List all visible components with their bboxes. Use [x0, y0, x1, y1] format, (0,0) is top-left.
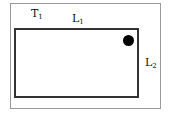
- label-l2: L2: [145, 57, 157, 72]
- label-l1-sub: 1: [79, 18, 83, 26]
- label-l2-sub: 2: [152, 62, 156, 70]
- label-t1-sub: 1: [38, 13, 42, 21]
- label-l1: L1: [72, 13, 84, 28]
- label-t1: T1: [31, 8, 43, 23]
- inner-rectangle: [14, 28, 139, 98]
- point-marker: [123, 35, 134, 46]
